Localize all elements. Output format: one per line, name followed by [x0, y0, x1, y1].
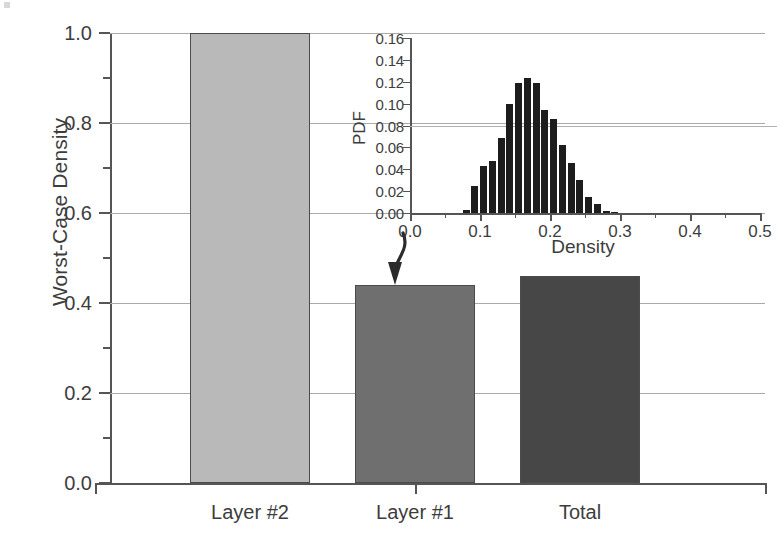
inset-histogram-bar	[515, 83, 522, 213]
y-tick-label: 1.0	[20, 22, 92, 45]
inset-histogram-bar	[498, 138, 505, 213]
inset-y-tick	[403, 169, 410, 170]
inset-y-tick	[403, 82, 410, 83]
inset-y-tick	[403, 104, 410, 105]
inset-histogram-bar	[471, 186, 478, 213]
inset-x-tick-label: 0.5	[748, 222, 772, 242]
inset-x-tick-minor	[515, 213, 516, 218]
y-tick-major	[99, 122, 110, 124]
y-tick-minor	[103, 77, 110, 79]
inset-histogram-bar	[550, 119, 557, 213]
inset-x-tick	[410, 213, 412, 221]
inset-x-tick-minor	[725, 213, 726, 218]
inset-y-tick	[403, 191, 410, 192]
inset-histogram-bar	[603, 211, 610, 213]
inset-x-tick	[690, 213, 692, 221]
worst-case-density-bar-chart: Worst-Case Density 0.00.20.40.60.81.0 La…	[0, 0, 777, 548]
y-tick-minor	[103, 437, 110, 439]
inset-histogram-bar	[524, 78, 531, 213]
inset-histogram-bar	[533, 83, 540, 213]
inset-pdf-histogram: 0.000.020.040.060.080.100.120.140.16 0.0…	[338, 8, 777, 260]
y-tick-label: 0.4	[20, 292, 92, 315]
inset-y-tick-label: 0.02	[344, 183, 404, 200]
inset-y-tick	[403, 126, 410, 127]
inset-gridline	[410, 126, 777, 127]
inset-histogram-bar	[480, 166, 487, 213]
x-tick-mark	[95, 483, 97, 494]
y-tick-major	[99, 212, 110, 214]
inset-histogram-bar	[559, 145, 566, 213]
inset-y-tick-label: 0.00	[344, 205, 404, 222]
y-tick-major	[99, 32, 110, 34]
inset-x-tick	[620, 213, 622, 221]
y-tick-minor	[103, 347, 110, 349]
inset-histogram-bar	[506, 104, 513, 213]
inset-histogram-bar	[585, 197, 592, 213]
inset-x-tick-minor	[445, 213, 446, 218]
x-tick-mark	[415, 483, 417, 494]
x-tick-label: Layer #2	[211, 501, 289, 524]
x-axis-line	[95, 483, 765, 485]
y-tick-major	[99, 302, 110, 304]
y-axis-line	[110, 33, 112, 485]
inset-x-tick-label: 0.4	[678, 222, 702, 242]
y-tick-label: 0.0	[20, 472, 92, 495]
x-tick-label: Layer #1	[376, 501, 454, 524]
inset-y-tick	[403, 38, 410, 39]
inset-histogram-bar	[576, 180, 583, 213]
inset-x-tick	[760, 213, 762, 221]
inset-x-tick	[550, 213, 552, 221]
bar	[520, 276, 640, 483]
y-tick-minor	[103, 167, 110, 169]
inset-histogram-bar	[594, 204, 601, 213]
inset-y-tick-label: 0.14	[344, 51, 404, 68]
page-corner-mark	[4, 2, 10, 8]
inset-x-tick	[480, 213, 482, 221]
inset-x-tick-label: 0.1	[468, 222, 492, 242]
inset-histogram-bar	[463, 210, 470, 213]
inset-y-tick	[403, 147, 410, 148]
x-tick-label: Total	[559, 501, 601, 524]
x-tick-mark	[765, 483, 767, 494]
y-tick-label: 0.8	[20, 112, 92, 135]
bar	[190, 33, 310, 483]
inset-histogram-bar	[541, 110, 548, 213]
inset-y-tick-label: 0.04	[344, 161, 404, 178]
inset-histogram-bar	[568, 163, 575, 213]
inset-x-tick-label: 0.0	[398, 222, 422, 242]
inset-histogram-bar	[611, 212, 618, 213]
inset-histogram-bar	[489, 161, 496, 214]
y-tick-major	[99, 482, 110, 484]
inset-x-tick-minor	[655, 213, 656, 218]
y-tick-label: 0.6	[20, 202, 92, 225]
inset-y-tick	[403, 213, 410, 214]
inset-y-tick-label: 0.16	[344, 30, 404, 47]
bar	[355, 285, 475, 483]
inset-x-tick-minor	[585, 213, 586, 218]
inset-y-axis-title: PDF	[350, 98, 370, 158]
y-tick-minor	[103, 257, 110, 259]
inset-y-tick-label: 0.12	[344, 73, 404, 90]
inset-y-tick	[403, 60, 410, 61]
y-tick-major	[99, 392, 110, 394]
inset-x-axis-title: Density	[551, 236, 614, 258]
y-tick-label: 0.2	[20, 382, 92, 405]
